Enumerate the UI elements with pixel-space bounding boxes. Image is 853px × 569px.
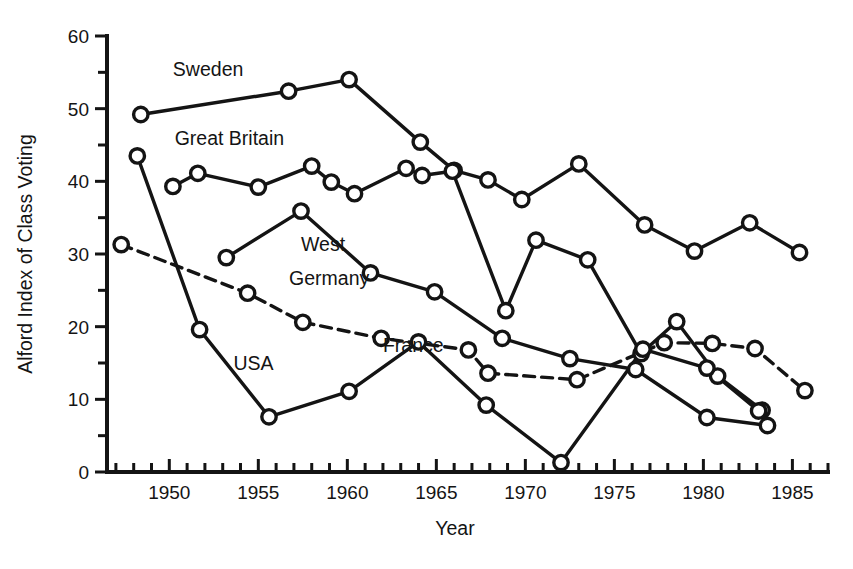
data-point-sweden [134,107,148,121]
y-tick-label: 10 [68,389,89,410]
alford-index-line-chart: 0102030405060 19501955196019651970197519… [0,0,853,569]
data-point-sweden [572,157,586,171]
data-point-usa [700,361,714,375]
data-point-france [114,237,128,251]
data-point-west-germany [219,250,233,264]
series-line-usa [137,156,758,463]
data-point-west-germany [629,362,643,376]
x-tick-label: 1960 [326,482,368,503]
data-point-sweden [515,192,529,206]
x-tick-label: 1950 [148,482,190,503]
y-tick-label: 20 [68,317,89,338]
series-label-west-germany: West [301,233,346,255]
data-point-great-britain [581,253,595,267]
data-point-usa [636,342,650,356]
data-point-great-britain [347,187,361,201]
data-point-sweden [743,216,757,230]
data-point-sweden [413,135,427,149]
data-point-west-germany [294,204,308,218]
y-tick-label: 50 [68,99,89,120]
data-point-great-britain [670,314,684,328]
x-tick-label: 1970 [504,482,546,503]
data-point-great-britain [305,159,319,173]
data-point-great-britain [499,304,513,318]
data-point-france [461,343,475,357]
data-point-west-germany [700,410,714,424]
series-line-sweden [141,80,800,253]
data-point-sweden [281,84,295,98]
chart-canvas: 0102030405060 19501955196019651970197519… [0,0,853,569]
data-point-france [748,341,762,355]
data-point-france [798,383,812,397]
y-tick-label: 30 [68,244,89,265]
y-tick-label: 0 [78,462,89,483]
series-label-sweden: Sweden [173,58,243,80]
data-point-france [705,336,719,350]
series-label-great-britain: Great Britain [175,127,284,149]
data-point-west-germany [427,285,441,299]
data-point-sweden [481,173,495,187]
data-point-france [570,373,584,387]
data-point-usa [130,149,144,163]
x-tick-label: 1975 [593,482,635,503]
data-point-usa [192,322,206,336]
data-point-great-britain [324,175,338,189]
data-point-great-britain [399,161,413,175]
data-point-usa [751,404,765,418]
series-label-usa: USA [233,352,273,374]
x-axis-tick-labels: 19501955196019651970197519801985 [148,482,813,503]
data-point-sweden [342,72,356,86]
data-point-sweden [687,244,701,258]
x-axis-title: Year [435,517,475,539]
data-point-sweden [637,218,651,232]
data-point-west-germany [495,331,509,345]
y-axis-title: Alford Index of Class Voting [14,134,36,374]
data-point-france [296,315,310,329]
data-point-usa [262,410,276,424]
y-axis-tick-labels: 0102030405060 [68,26,89,483]
x-tick-label: 1955 [237,482,279,503]
data-point-west-germany [760,418,774,432]
y-tick-label: 60 [68,26,89,47]
data-point-west-germany [563,351,577,365]
data-point-great-britain [166,179,180,193]
data-point-france [240,286,254,300]
series-label-west-germany-line2: Germany [289,267,369,289]
x-tick-label: 1965 [415,482,457,503]
x-tick-label: 1985 [771,482,813,503]
data-point-great-britain [529,233,543,247]
data-point-usa [342,384,356,398]
series-label-france: France [383,334,444,356]
data-point-great-britain [445,164,459,178]
data-point-france [481,366,495,380]
y-tick-label: 40 [68,171,89,192]
data-point-great-britain [251,180,265,194]
data-point-france [657,336,671,350]
data-point-great-britain [191,166,205,180]
x-axis-ticks [116,459,828,472]
data-point-great-britain [415,168,429,182]
data-point-usa [554,455,568,469]
x-tick-label: 1980 [682,482,724,503]
data-point-usa [479,398,493,412]
data-point-sweden [792,245,806,259]
